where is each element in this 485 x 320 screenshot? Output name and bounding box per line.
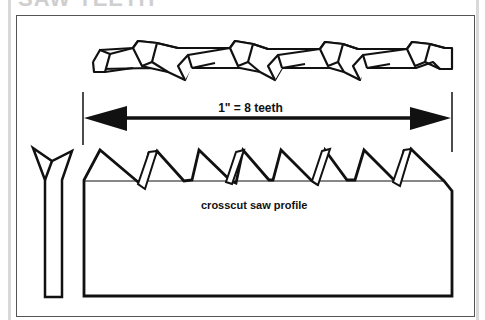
saw-teeth-diagram — [0, 0, 485, 320]
diagram-page: SAW TEETH — [0, 0, 485, 320]
dimension-label: 1" = 8 teeth — [0, 101, 485, 115]
profile-caption: crosscut saw profile — [201, 199, 307, 211]
end-view-blade — [33, 148, 72, 297]
top-view-tooth-set — [93, 41, 452, 80]
side-profile-teeth — [84, 149, 452, 296]
